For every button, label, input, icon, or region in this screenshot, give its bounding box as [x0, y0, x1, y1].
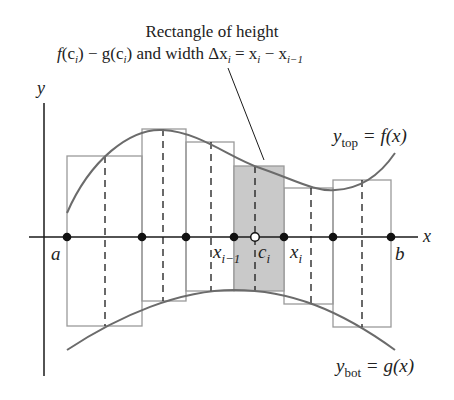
y-axis-label: y	[35, 78, 45, 98]
rectangle-2	[142, 129, 186, 301]
point-b	[387, 233, 396, 242]
point-a	[63, 233, 72, 242]
point-x-i-minus-1	[230, 233, 239, 242]
callout-line-2: f(ci) − g(ci) and width Δxi = xi − xi−1	[57, 44, 303, 65]
label-b: b	[395, 243, 405, 264]
region-between-curves-diagram: Rectangle of height f(ci) − g(ci) and wi…	[0, 0, 454, 400]
label-y-bot: ybot = g(x)	[334, 355, 414, 380]
label-a: a	[51, 243, 61, 264]
point-x-i	[280, 233, 289, 242]
callout-line-1: Rectangle of height	[145, 22, 278, 41]
riemann-rectangles	[67, 129, 391, 327]
bottom-curve-g	[67, 290, 395, 350]
x-axis-label: x	[422, 226, 431, 246]
label-x-i: xi	[289, 241, 302, 266]
label-y-top: ytop = f(x)	[331, 125, 407, 150]
shaded-representative-rectangle	[234, 166, 284, 291]
rectangle-3	[186, 142, 234, 291]
sample-point-c-i	[251, 233, 260, 242]
